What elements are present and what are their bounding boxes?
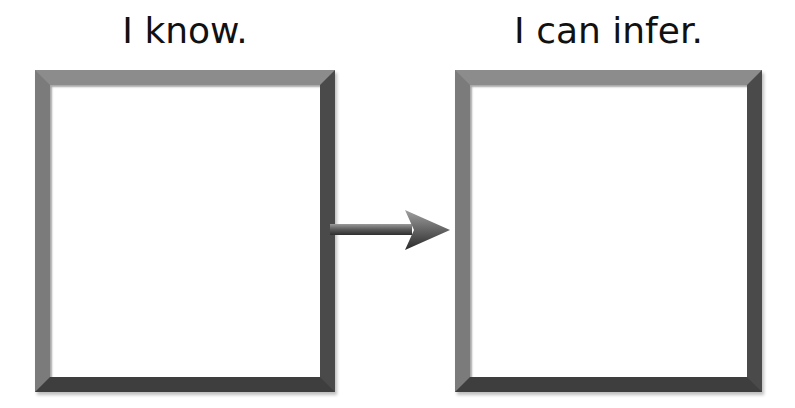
heading-i-know: I know. — [35, 10, 335, 51]
know-box[interactable] — [35, 70, 335, 392]
arrow-right-icon — [330, 205, 455, 255]
heading-i-can-infer: I can infer. — [455, 10, 762, 51]
infer-box[interactable] — [455, 70, 762, 392]
